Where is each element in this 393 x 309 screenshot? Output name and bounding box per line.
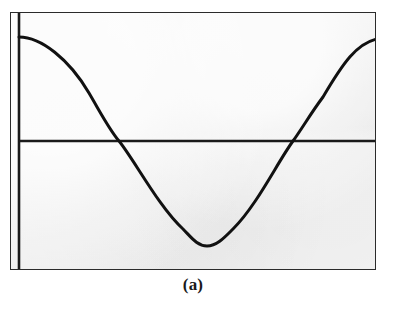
plot-svg xyxy=(11,13,376,270)
plot-frame xyxy=(10,12,376,270)
figure-caption: (a) xyxy=(0,274,386,296)
figure-container: (a) xyxy=(0,0,393,309)
